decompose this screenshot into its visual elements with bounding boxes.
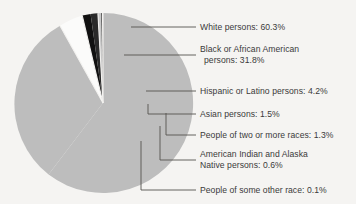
label-hispanic-or-latino-persons: Hispanic or Latino persons: 4.2%	[200, 86, 328, 96]
label-american-indian-and-alaska-native-persons-line2: Native persons: 0.6%	[200, 160, 283, 170]
pie-chart-figure: White persons: 60.3% Black or African Am…	[0, 0, 356, 204]
pie-slices	[14, 13, 193, 193]
label-black-or-african-american-persons-line2: persons: 31.8%	[204, 55, 265, 65]
label-people-of-some-other-race: People of some other race: 0.1%	[200, 185, 327, 195]
label-black-or-african-american-persons-line1: Black or African American	[200, 44, 299, 54]
label-american-indian-and-alaska-native-persons-line1: American Indian and Alaska	[200, 149, 308, 159]
label-white-persons: White persons: 60.3%	[200, 22, 285, 32]
label-asian-persons: Asian persons: 1.5%	[200, 109, 280, 119]
pie-chart-canvas: White persons: 60.3% Black or African Am…	[0, 0, 356, 204]
label-people-of-two-or-more-races: People of two or more races: 1.3%	[200, 130, 334, 140]
